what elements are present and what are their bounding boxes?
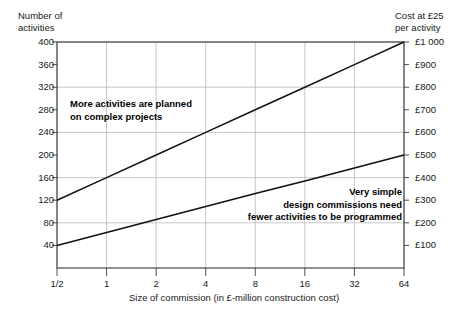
y-tick-label-left: 40 (18, 239, 54, 250)
y-tick-label-right: £100 (415, 239, 436, 250)
y-tick-label-right: £800 (415, 81, 436, 92)
x-tick-label: 2 (136, 278, 176, 289)
x-tick-label: 1/2 (37, 278, 77, 289)
x-tick-label: 8 (235, 278, 275, 289)
y-tick-label-left: 400 (18, 36, 54, 47)
x-axis-title: Size of commission (in £-million constru… (0, 292, 468, 304)
y-tick-label-left: 360 (18, 59, 54, 70)
y-tick-label-right: £900 (415, 59, 436, 70)
y-tick-label-left: 160 (18, 172, 54, 183)
y-tick-label-left: 80 (18, 217, 54, 228)
y-tick-label-left: 280 (18, 104, 54, 115)
plot-frame (57, 42, 404, 268)
x-tick-label: 1 (87, 278, 127, 289)
y-tick-label-right: £600 (415, 126, 436, 137)
x-tick-label: 4 (186, 278, 226, 289)
annotation-simple-commissions: Very simple design commissions need fewe… (150, 186, 402, 224)
x-tick-label: 64 (384, 278, 424, 289)
chart-container: Number of activities Cost at £25 per act… (0, 0, 468, 313)
y-tick-label-right: £700 (415, 104, 436, 115)
x-tick-label: 16 (285, 278, 325, 289)
y-tick-label-left: 200 (18, 149, 54, 160)
y-tick-label-right: £200 (415, 217, 436, 228)
y-tick-label-right: £1 000 (415, 36, 444, 47)
y-tick-label-left: 240 (18, 126, 54, 137)
axis-ticks (52, 42, 409, 276)
y-tick-label-left: 120 (18, 194, 54, 205)
y-tick-label-right: £300 (415, 194, 436, 205)
chart-plot-svg (0, 0, 468, 313)
vertical-gridlines (57, 42, 404, 268)
annotation-complex-projects: More activities are planned on complex p… (70, 98, 192, 123)
y-tick-label-right: £500 (415, 149, 436, 160)
y-tick-label-right: £400 (415, 172, 436, 183)
x-tick-label: 32 (334, 278, 374, 289)
y-tick-label-left: 320 (18, 81, 54, 92)
